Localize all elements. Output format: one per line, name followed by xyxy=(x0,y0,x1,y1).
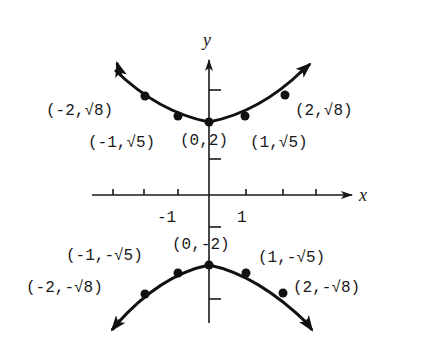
label-lower-2: (2,-√8) xyxy=(293,279,360,297)
label-upper-0: (0,2) xyxy=(180,132,228,150)
point-lower-1 xyxy=(242,269,251,278)
label-upper-neg1: (-1,√5) xyxy=(88,134,155,152)
label-upper-neg2: (-2,√8) xyxy=(46,102,113,120)
hyperbola-graph: x -1 1 y (-2,√8) (-1,√5) (0,2) xyxy=(0,0,435,350)
y-axis: y xyxy=(201,30,221,323)
x-axis-label: x xyxy=(358,185,367,205)
label-lower-0: (0,-2) xyxy=(172,236,230,254)
point-upper-neg1 xyxy=(174,112,183,121)
upper-branch xyxy=(115,63,310,127)
point-upper-2 xyxy=(281,91,290,100)
x-tick-label-1: 1 xyxy=(237,209,247,227)
point-lower-2 xyxy=(279,289,288,298)
label-lower-neg1: (-1,-√5) xyxy=(66,247,143,265)
point-upper-neg2 xyxy=(141,92,150,101)
point-upper-1 xyxy=(241,112,250,121)
label-upper-1: (1,√5) xyxy=(250,134,308,152)
upper-labels: (-2,√8) (-1,√5) (0,2) (1,√5) (2,√8) xyxy=(46,102,353,152)
label-lower-neg2: (-2,-√8) xyxy=(26,279,103,297)
label-upper-2: (2,√8) xyxy=(295,102,353,120)
label-lower-1: (1,-√5) xyxy=(258,249,325,267)
x-axis: x -1 1 xyxy=(92,185,367,227)
lower-branch xyxy=(112,261,312,331)
point-lower-neg1 xyxy=(174,269,183,278)
point-lower-0 xyxy=(205,261,214,270)
lower-labels: (-2,-√8) (-1,-√5) (0,-2) (1,-√5) (2,-√8) xyxy=(26,236,360,297)
y-axis-label: y xyxy=(201,30,211,50)
x-tick-label-neg1: -1 xyxy=(157,209,176,227)
point-lower-neg2 xyxy=(141,290,150,299)
point-upper-0 xyxy=(205,118,214,127)
